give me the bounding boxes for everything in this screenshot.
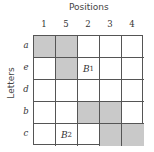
column-header: 5	[55, 19, 77, 29]
grid-cell	[122, 36, 144, 58]
grid-cell	[34, 80, 56, 102]
grid-cell	[78, 102, 100, 124]
grid-cell	[122, 102, 144, 124]
row-header: e	[20, 62, 32, 72]
grid-cell	[56, 36, 78, 58]
grid-cell	[122, 80, 144, 102]
grid-cell	[100, 80, 122, 102]
grid-cell	[34, 102, 56, 124]
grid-cell	[56, 58, 78, 80]
row-header: a	[20, 40, 32, 50]
grid-cell	[78, 80, 100, 102]
grid-cell	[122, 58, 144, 80]
column-header: 3	[99, 19, 121, 29]
row-header: b	[20, 106, 32, 116]
grid-cell	[34, 124, 56, 146]
grid-cell	[34, 36, 56, 58]
grid-cell	[100, 102, 122, 124]
grid-cell: B1	[78, 58, 100, 80]
grid-cell	[34, 58, 56, 80]
grid-cell	[56, 80, 78, 102]
grid-cell	[56, 102, 78, 124]
column-header: 1	[33, 19, 55, 29]
grid-cell	[100, 36, 122, 58]
grid-cell	[122, 124, 144, 146]
grid-cell	[100, 58, 122, 80]
grid-cell	[78, 124, 100, 146]
grid-cell: B2	[56, 124, 78, 146]
row-header: d	[20, 84, 32, 94]
grid-cell	[100, 124, 122, 146]
x-axis-title: Positions	[69, 2, 109, 12]
matrix-grid: B1B2	[33, 35, 143, 145]
column-header: 2	[77, 19, 99, 29]
y-axis-title: Letters	[6, 67, 16, 98]
column-header: 4	[121, 19, 143, 29]
row-header: c	[20, 128, 32, 138]
grid-cell	[78, 36, 100, 58]
